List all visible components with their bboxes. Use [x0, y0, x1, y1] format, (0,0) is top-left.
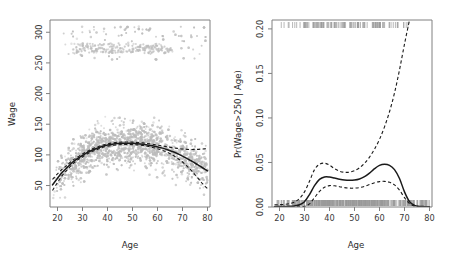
y-axis-title: Wage — [7, 102, 17, 126]
panel-wage-vs-age: 2030405060708050100150200250300 Age Wage — [0, 0, 225, 266]
x-tick-label: 30 — [299, 213, 309, 223]
x-tick-label: 20 — [274, 213, 284, 223]
wage-scatter-plot: 2030405060708050100150200250300 Age Wage — [0, 0, 225, 266]
panel-probability-vs-age: 203040506070800.000.050.100.150.20 Age P… — [225, 0, 449, 266]
y-tick-label: 150 — [34, 116, 44, 132]
probability-line-plot: 203040506070800.000.050.100.150.20 Age P… — [225, 0, 449, 266]
y-tick-label: 100 — [34, 147, 44, 163]
x-tick-label: 40 — [102, 213, 112, 223]
y-tick-label: 0.00 — [255, 198, 265, 216]
x-tick-label: 40 — [324, 213, 334, 223]
x-tick-label: 70 — [399, 213, 409, 223]
x-tick-label: 30 — [77, 213, 87, 223]
y-tick-label: 0.20 — [255, 20, 265, 38]
x-tick-label: 60 — [374, 213, 384, 223]
axes-layer: 203040506070800.000.050.100.150.20 — [255, 20, 435, 223]
x-tick-label: 60 — [152, 213, 162, 223]
y-tick-label: 0.10 — [255, 109, 265, 127]
x-tick-label: 80 — [202, 213, 212, 223]
x-axis-title: Age — [348, 240, 365, 250]
x-tick-label: 50 — [349, 213, 359, 223]
fit-curves-layer — [275, 20, 430, 207]
y-axis-title: Pr(Wage>250 | Age) — [233, 70, 243, 158]
y-tick-label: 0.15 — [255, 64, 265, 82]
y-tick-label: 300 — [34, 24, 44, 40]
scatter-points-layer — [52, 25, 209, 199]
rug-marks-layer — [277, 22, 429, 206]
y-tick-label: 250 — [34, 55, 44, 71]
x-tick-label: 70 — [177, 213, 187, 223]
x-axis-title: Age — [122, 240, 139, 250]
y-tick-label: 200 — [34, 86, 44, 102]
figure-wage-polynomial-regression: 2030405060708050100150200250300 Age Wage… — [0, 0, 449, 266]
x-tick-label: 80 — [424, 213, 434, 223]
x-tick-label: 50 — [127, 213, 137, 223]
y-tick-label: 50 — [34, 180, 44, 190]
x-tick-label: 20 — [52, 213, 62, 223]
y-tick-label: 0.05 — [255, 153, 265, 171]
